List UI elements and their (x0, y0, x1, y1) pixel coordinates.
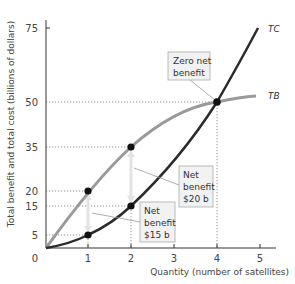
x-tick-labels: 1 2 3 4 5 (85, 253, 263, 264)
y-axis-title: Total benefit and total cost (billions o… (6, 21, 16, 228)
svg-text:35: 35 (25, 142, 38, 153)
zero-net-benefit-note: Zero net benefit (168, 52, 212, 80)
svg-text:$15 b: $15 b (144, 230, 170, 240)
svg-text:benefit: benefit (173, 68, 205, 78)
tc-label: TC (268, 24, 280, 34)
svg-text:0: 0 (32, 253, 38, 264)
svg-text:5: 5 (32, 230, 38, 241)
svg-text:Net: Net (183, 170, 199, 180)
point-tc-2 (127, 202, 134, 209)
x-axis-title: Quantity (number of satellites) (150, 267, 289, 277)
y-tick-labels: 75 50 35 20 15 5 0 (25, 23, 38, 264)
svg-text:15: 15 (25, 201, 38, 212)
net-benefit-20-note: Net benefit $20 b (179, 166, 215, 207)
svg-text:50: 50 (25, 97, 38, 108)
svg-text:75: 75 (25, 23, 38, 34)
point-tb-1 (84, 187, 91, 194)
svg-text:$20 b: $20 b (183, 194, 209, 204)
point-tb-2 (127, 143, 134, 150)
svg-text:4: 4 (214, 253, 220, 264)
net-benefit-15-note: Net benefit $15 b (140, 202, 176, 242)
tb-label: TB (268, 91, 280, 101)
svg-text:Net: Net (144, 206, 160, 216)
point-tc-1 (84, 231, 91, 238)
point-intersection (213, 98, 221, 106)
svg-text:Zero net: Zero net (173, 56, 212, 66)
chart: Total benefit and total cost (billions o… (0, 0, 295, 284)
svg-text:2: 2 (128, 253, 134, 264)
svg-text:3: 3 (171, 253, 177, 264)
svg-text:1: 1 (85, 253, 91, 264)
svg-text:benefit: benefit (183, 182, 215, 192)
svg-text:5: 5 (257, 253, 263, 264)
svg-text:benefit: benefit (144, 218, 176, 228)
svg-text:20: 20 (25, 186, 38, 197)
